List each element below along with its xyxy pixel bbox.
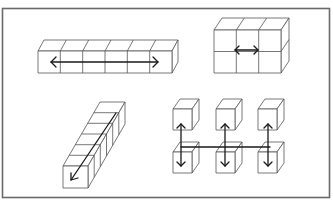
cube-top-2	[216, 99, 242, 130]
panel-row-of-cubes	[38, 40, 178, 73]
panel-depth-column	[63, 102, 125, 188]
diagram-figure	[0, 0, 333, 203]
panel-separated-cubes	[173, 99, 284, 173]
panel-block-of-cubes	[214, 18, 289, 73]
cube-top-3	[258, 99, 284, 130]
cube-top-1	[173, 99, 199, 130]
